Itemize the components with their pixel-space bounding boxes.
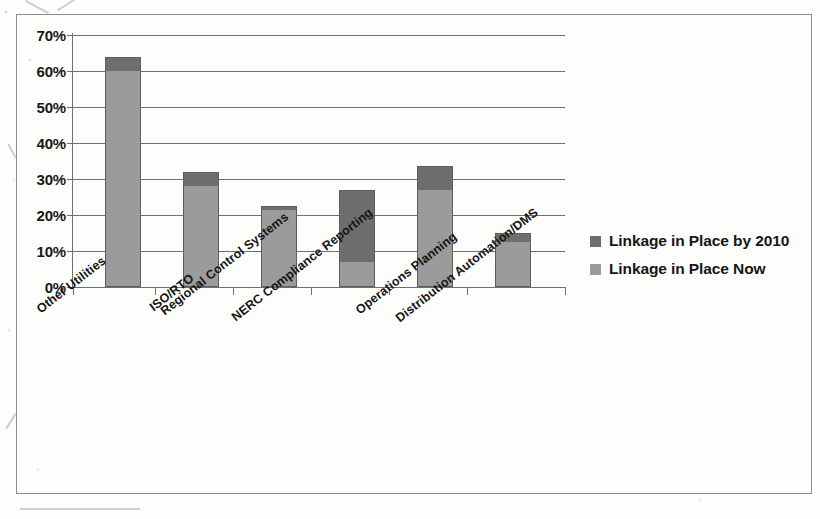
gridline xyxy=(73,179,565,180)
gridline xyxy=(73,107,565,108)
y-axis-labels: 70% 60% 50% 40% 30% 20% 10% 0% xyxy=(0,0,66,519)
x-tick-mark xyxy=(565,288,566,295)
gridline xyxy=(73,71,565,72)
bar-segment-by-2010 xyxy=(183,172,219,186)
legend-item-by-2010[interactable]: Linkage in Place by 2010 xyxy=(590,232,815,250)
bar-other-utilities[interactable] xyxy=(105,57,141,287)
bar-segment-by-2010 xyxy=(105,57,141,71)
y-tick-label: 70% xyxy=(37,27,66,44)
y-tick-label: 40% xyxy=(37,135,66,152)
x-tick-mark xyxy=(233,288,234,295)
y-tick-label: 20% xyxy=(37,207,66,224)
bar-segment-now xyxy=(105,71,141,287)
chart-page: 70% 60% 50% 40% 30% 20% 10% 0% xyxy=(0,0,820,519)
x-tick-mark xyxy=(467,288,468,295)
bar-segment-now xyxy=(339,262,375,287)
bar-segment-now xyxy=(495,242,531,287)
legend-label: Linkage in Place Now xyxy=(609,260,766,278)
bar-segment-by-2010 xyxy=(417,166,453,189)
chart-legend: Linkage in Place by 2010 Linkage in Plac… xyxy=(590,232,815,288)
gridline xyxy=(73,143,565,144)
y-tick-label: 30% xyxy=(37,171,66,188)
y-tick-label: 10% xyxy=(37,243,66,260)
legend-item-now[interactable]: Linkage in Place Now xyxy=(590,260,815,278)
y-tick-label: 50% xyxy=(37,99,66,116)
y-tick-label: 60% xyxy=(37,63,66,80)
legend-swatch-icon xyxy=(590,236,601,247)
x-tick-mark xyxy=(155,288,156,295)
legend-label: Linkage in Place by 2010 xyxy=(609,232,789,250)
gridline xyxy=(73,35,565,36)
x-tick-mark xyxy=(311,288,312,295)
gridline xyxy=(73,215,565,216)
legend-swatch-icon xyxy=(590,264,601,275)
x-axis-line xyxy=(72,287,566,288)
